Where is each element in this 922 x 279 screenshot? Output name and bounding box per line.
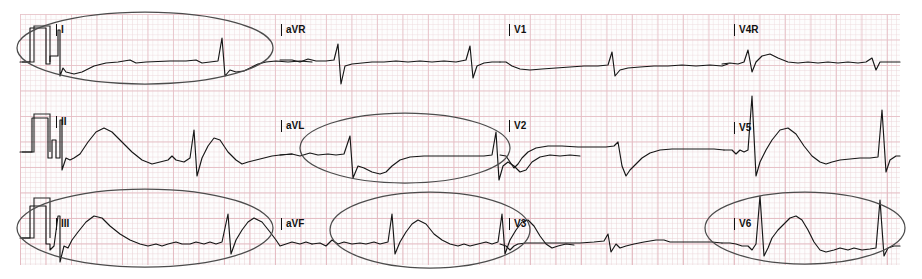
ellipse-lead-I (17, 12, 273, 84)
lead-label-text: V5 (739, 122, 751, 133)
lead-marker-tick-icon (509, 120, 510, 132)
ecg-traces (20, 26, 900, 262)
lead-label-text: aVF (286, 218, 304, 229)
lead-label-text: V4R (739, 24, 758, 35)
lead-label-avr: aVR (281, 24, 305, 36)
ecg-trace-v4r (722, 50, 900, 72)
lead-label-v5: V5 (734, 122, 751, 134)
lead-label-text: V1 (514, 24, 526, 35)
lead-marker-tick-icon (56, 116, 57, 128)
ecg-trace-iii (20, 206, 312, 262)
ellipse-lead-aVL (300, 113, 510, 183)
ecg-trace-v2 (500, 142, 724, 176)
lead-marker-tick-icon (56, 218, 57, 230)
lead-marker-tick-icon (281, 24, 282, 36)
calibration-pulse (22, 114, 50, 152)
lead-marker-tick-icon (281, 218, 282, 230)
lead-marker-tick-icon (281, 120, 282, 132)
lead-marker-tick-icon (509, 218, 510, 230)
lead-label-text: I (61, 24, 64, 35)
ecg-trace-layer (0, 0, 922, 279)
ecg-trace-avf (312, 214, 574, 254)
lead-label-v3: V3 (509, 218, 526, 230)
lead-marker-tick-icon (734, 218, 735, 230)
lead-label-text: V2 (514, 120, 526, 131)
ecg-viewer: IaVRV1V4RIIaVLV2V5IIIaVFV3V6 (0, 0, 922, 279)
lead-marker-tick-icon (509, 24, 510, 36)
lead-label-text: aVR (286, 24, 305, 35)
lead-marker-tick-icon (56, 24, 57, 36)
ecg-trace-avl (280, 132, 580, 180)
lead-label-text: V3 (514, 218, 526, 229)
lead-label-text: V6 (739, 218, 751, 229)
lead-label-text: III (61, 218, 69, 229)
lead-label-v4r: V4R (734, 24, 758, 36)
lead-label-v6: V6 (734, 218, 751, 230)
lead-label-text: aVL (286, 120, 304, 131)
lead-label-i: I (56, 24, 64, 36)
lead-marker-tick-icon (734, 122, 735, 134)
lead-label-ii: II (56, 116, 67, 128)
lead-label-iii: III (56, 218, 69, 230)
lead-label-v1: V1 (509, 24, 526, 36)
ecg-trace-avr (280, 44, 500, 84)
lead-label-avf: aVF (281, 218, 304, 230)
lead-label-avl: aVL (281, 120, 304, 132)
lead-label-text: II (61, 116, 67, 127)
ecg-trace-i (20, 28, 312, 76)
ecg-trace-v1 (500, 52, 728, 76)
ecg-trace-v5 (724, 96, 900, 176)
ecg-trace-v3 (500, 234, 722, 252)
lead-label-v2: V2 (509, 120, 526, 132)
lead-marker-tick-icon (734, 24, 735, 36)
